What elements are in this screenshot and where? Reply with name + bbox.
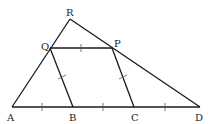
geometry-diagram: R Q P A B C D [0,0,208,124]
label-A: A [6,112,15,123]
segment-PC [112,48,134,107]
segment-RD [70,19,200,107]
label-P: P [114,38,121,49]
label-D: D [195,112,203,123]
label-B: B [69,112,76,123]
segment-AR [12,19,70,107]
label-Q: Q [41,41,49,52]
label-R: R [66,7,74,18]
label-C: C [131,112,139,123]
